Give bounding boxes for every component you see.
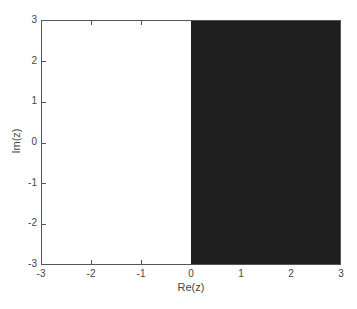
y-tick (42, 143, 46, 144)
x-tick-label: -2 (81, 268, 101, 279)
region-right-half-filled (191, 21, 340, 264)
y-tick-label: -1 (20, 177, 37, 188)
y-tick (42, 183, 46, 184)
x-tick-label: 3 (331, 268, 351, 279)
y-tick-label: 1 (20, 95, 37, 106)
x-tick-label: 1 (231, 268, 251, 279)
y-tick-label: 2 (20, 55, 37, 66)
y-axis-label: Im(z) (10, 121, 22, 161)
x-tick (141, 260, 142, 264)
y-tick-label: -3 (20, 258, 37, 269)
y-tick (42, 102, 46, 103)
x-tick-label: 0 (181, 268, 201, 279)
x-tick-label: -1 (131, 268, 151, 279)
y-tick (42, 61, 46, 62)
y-tick-label: 0 (20, 136, 37, 147)
plot-area (41, 20, 341, 265)
x-tick-label: -3 (31, 268, 51, 279)
x-axis-label: Re(z) (171, 281, 211, 293)
y-tick-label: -2 (20, 217, 37, 228)
x-tick (141, 21, 142, 25)
y-tick-label: 3 (20, 14, 37, 25)
y-tick (42, 224, 46, 225)
x-tick (91, 260, 92, 264)
region-left-half (42, 21, 191, 264)
x-tick (91, 21, 92, 25)
x-tick-label: 2 (281, 268, 301, 279)
